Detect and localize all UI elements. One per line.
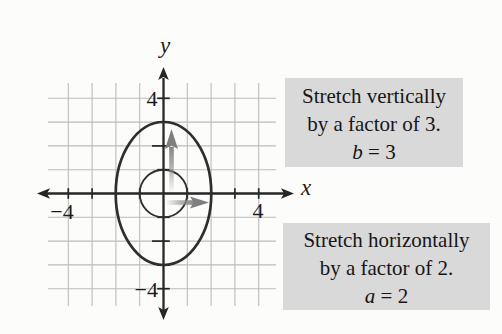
y-tick-label-neg4: −4 <box>135 277 158 302</box>
note-line-1: Stretch vertically <box>285 82 463 110</box>
note-equation: b = 3 <box>285 138 463 166</box>
variable-b: b <box>352 140 363 164</box>
equation-value: = 3 <box>368 140 396 164</box>
y-tick-label-4: 4 <box>147 86 158 111</box>
vertical-stretch-arrow <box>165 129 178 192</box>
horizontal-stretch-note: Stretch horizontally by a factor of 2. a… <box>283 223 490 310</box>
vertical-stretch-note: Stretch vertically by a factor of 3. b =… <box>285 78 463 167</box>
note-line-1: Stretch horizontally <box>283 226 490 254</box>
y-axis-label: y <box>158 33 171 58</box>
x-tick-label-4: 4 <box>253 198 264 223</box>
figure-ellipse-stretch: y x 4 −4 −4 4 Stretch vertically by a fa… <box>0 0 502 334</box>
note-line-2: by a factor of 3. <box>285 110 463 138</box>
equation-value: = 2 <box>381 284 409 308</box>
x-tick-label-neg4: −4 <box>50 199 73 224</box>
variable-a: a <box>365 284 376 308</box>
note-line-2: by a factor of 2. <box>283 254 490 282</box>
note-equation: a = 2 <box>283 282 490 310</box>
x-axis-label: x <box>300 175 312 200</box>
